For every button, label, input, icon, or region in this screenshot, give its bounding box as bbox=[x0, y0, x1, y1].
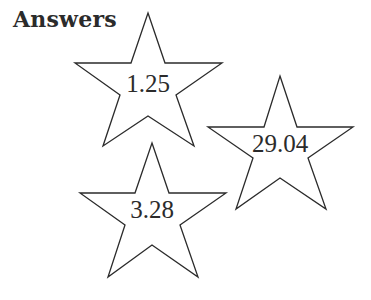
star-value-3: 3.28 bbox=[102, 196, 202, 224]
star-value-2: 29.04 bbox=[230, 130, 330, 158]
star-value-1: 1.25 bbox=[98, 70, 198, 98]
